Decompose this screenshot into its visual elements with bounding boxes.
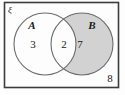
region-count-outside: 8 — [107, 72, 113, 84]
set-b-label: B — [87, 19, 95, 31]
region-count-a-only: 3 — [30, 38, 36, 50]
region-count-intersection: 2 — [61, 38, 67, 50]
set-a-label: A — [27, 19, 35, 31]
venn-diagram-canvas: ξ A B 3 2 7 8 — [0, 0, 125, 95]
venn-diagram-figure: ξ A B 3 2 7 8 — [0, 0, 125, 95]
region-count-b-only: 7 — [77, 38, 83, 50]
universal-set-label: ξ — [8, 5, 12, 15]
